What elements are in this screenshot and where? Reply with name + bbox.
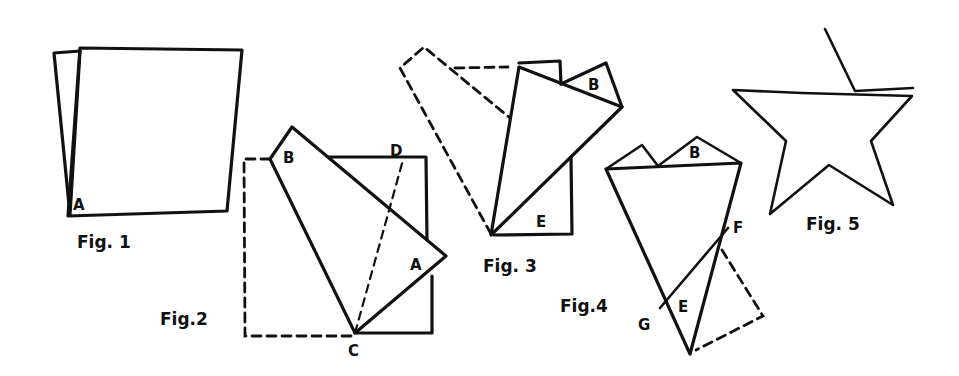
figure-1: A Fig. 1 [54, 48, 242, 252]
figure-3: B E Fig. 3 [400, 47, 622, 276]
star-folding-diagram: A Fig. 1 B D A C Fig.2 B E Fig. 3 [0, 0, 959, 376]
fig4-left-peak [606, 145, 658, 169]
fig1-back-layer [54, 51, 80, 215]
fig4-kite-body [606, 163, 741, 354]
fig2-caption: Fig.2 [160, 309, 208, 329]
fig3-previous-top-edge [455, 67, 508, 68]
fig4-point-g: G [638, 316, 650, 334]
fig4-point-e: E [678, 298, 688, 316]
fig3-point-e: E [536, 213, 546, 231]
fig2-point-a: A [410, 256, 422, 274]
fig1-point-a: A [73, 196, 85, 214]
fig4-caption: Fig.4 [560, 296, 608, 316]
figure-4: B F E G Fig.4 [560, 137, 763, 354]
figure-5: Fig. 5 [733, 29, 913, 234]
fig5-star [733, 29, 913, 214]
fig3-main-fold [491, 67, 622, 235]
fig1-caption: Fig. 1 [77, 232, 131, 252]
fig2-point-c: C [348, 342, 359, 360]
fig3-caption: Fig. 3 [483, 256, 537, 276]
fig2-point-d: D [390, 142, 402, 160]
figure-2: B D A C Fig.2 [160, 127, 446, 360]
fig5-caption: Fig. 5 [806, 214, 860, 234]
fig4-point-b: B [689, 144, 700, 162]
fig2-point-b: B [283, 149, 294, 167]
fig1-square-sheet [68, 48, 242, 216]
fig4-cut-line-gf [660, 228, 728, 308]
fig3-previous-outline [400, 47, 510, 234]
fig4-point-f: F [733, 219, 743, 237]
fig2-original-outline [244, 159, 352, 336]
fig3-point-b: B [588, 76, 599, 94]
